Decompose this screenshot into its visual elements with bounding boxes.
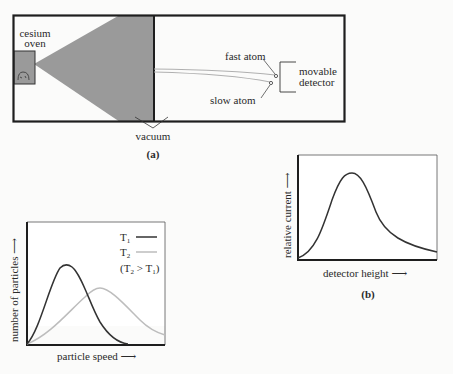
x-axis-label: particle speed ⟶ bbox=[57, 350, 137, 362]
fast-atom-dot bbox=[274, 74, 277, 77]
detector-label-line2: detector bbox=[299, 76, 335, 88]
slow-atom-label: slow atom bbox=[210, 94, 256, 106]
detector-current-plot: relative current ⟶ detector height ⟶ (b) bbox=[281, 155, 437, 301]
caption-b: (b) bbox=[361, 288, 375, 301]
movable-detector bbox=[280, 62, 296, 92]
x-axis-label: detector height ⟶ bbox=[323, 267, 407, 279]
cesium-oven bbox=[14, 51, 35, 84]
y-axis-label: relative current ⟶ bbox=[281, 172, 293, 258]
atom-beam-cone bbox=[34, 16, 154, 122]
figure: cesium oven fast atom slow atom movable … bbox=[0, 0, 453, 374]
oven-label-line2: oven bbox=[24, 37, 46, 49]
slow-atom-dot bbox=[269, 81, 272, 84]
y-axis-label: number of particles ⟶ bbox=[8, 238, 20, 342]
caption-a: (a) bbox=[147, 148, 160, 161]
vacuum-label: vacuum bbox=[136, 130, 171, 142]
speed-distribution-plot: T1 T2 (T2 > T1) number of particles ⟶ pa… bbox=[8, 222, 165, 362]
apparatus-diagram: cesium oven fast atom slow atom movable … bbox=[14, 16, 345, 162]
fast-atom-label: fast atom bbox=[225, 50, 266, 62]
slow-atom-pointer bbox=[261, 85, 270, 98]
